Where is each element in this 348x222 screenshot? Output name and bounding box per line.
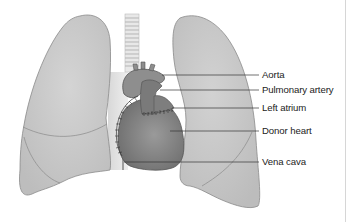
- label-vena-cava: Vena cava: [262, 156, 306, 167]
- label-pulmonary-artery: Pulmonary artery: [262, 84, 333, 95]
- donor-heart: [115, 62, 184, 170]
- left-lung: [173, 16, 260, 208]
- label-left-atrium: Left atrium: [262, 102, 306, 113]
- right-lung: [20, 15, 111, 195]
- label-donor-heart: Donor heart: [262, 125, 312, 136]
- trachea: [125, 14, 139, 72]
- label-aorta: Aorta: [262, 69, 284, 80]
- page-edge-divider: [345, 0, 346, 222]
